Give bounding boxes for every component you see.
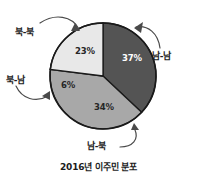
label-buk-nam: 북-남: [6, 76, 25, 85]
label-buk-buk: 북-북: [15, 28, 34, 37]
arrow-buk-nam: [16, 86, 50, 100]
pie-chart-figure: 북-북 남-남 북-남 남-북 37% 34% 6% 23% 2016년 이주민…: [0, 0, 197, 183]
value-label-nam-nam: 37%: [122, 54, 142, 63]
label-nam-buk: 남-북: [87, 142, 106, 151]
chart-caption: 2016년 이주민 분포: [0, 160, 197, 173]
value-label-nam-buk: 34%: [94, 103, 114, 112]
arrow-buk-buk: [40, 17, 80, 31]
value-label-buk-buk: 23%: [75, 47, 95, 56]
label-nam-nam: 남-남: [152, 52, 171, 61]
arrow-nam-buk: [120, 123, 139, 147]
value-label-buk-nam: 6%: [61, 81, 75, 90]
